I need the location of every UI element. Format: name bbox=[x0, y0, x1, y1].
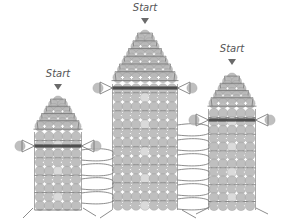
bead bbox=[149, 138, 159, 148]
bead bbox=[71, 175, 81, 185]
bead bbox=[149, 102, 159, 112]
bead-towers bbox=[15, 30, 275, 211]
bead bbox=[44, 183, 54, 193]
bead bbox=[189, 115, 199, 125]
bead-stitch-diagram bbox=[0, 0, 284, 219]
bead bbox=[113, 174, 123, 184]
bead bbox=[122, 174, 132, 184]
bead bbox=[35, 131, 45, 141]
tower-left bbox=[15, 96, 101, 211]
bead bbox=[44, 166, 54, 176]
bead bbox=[140, 102, 150, 112]
loops-center-right bbox=[178, 124, 211, 210]
bead bbox=[35, 149, 45, 159]
bead bbox=[62, 149, 72, 159]
thread-loop bbox=[82, 192, 115, 204]
bead bbox=[62, 183, 72, 193]
bead bbox=[167, 147, 177, 157]
bead bbox=[71, 157, 81, 167]
bead bbox=[62, 166, 72, 176]
bead bbox=[149, 120, 159, 130]
bead bbox=[167, 165, 177, 175]
thread-tail bbox=[100, 210, 112, 218]
bead bbox=[167, 192, 177, 202]
bead bbox=[140, 156, 150, 166]
bead bbox=[62, 201, 72, 211]
bead bbox=[122, 192, 132, 202]
bead bbox=[122, 102, 132, 112]
dark-thread-band bbox=[35, 144, 82, 147]
bead bbox=[131, 174, 141, 184]
bead bbox=[167, 174, 177, 184]
thread-loop bbox=[178, 154, 211, 166]
bead bbox=[167, 111, 177, 121]
bead bbox=[71, 149, 81, 159]
bead bbox=[167, 129, 177, 139]
bead bbox=[113, 156, 123, 166]
bead bbox=[158, 102, 168, 112]
bead bbox=[35, 201, 45, 211]
bead bbox=[53, 131, 63, 141]
bead bbox=[35, 166, 45, 176]
thread-loop bbox=[178, 169, 211, 181]
bead bbox=[158, 120, 168, 130]
thread-tail bbox=[83, 208, 96, 216]
bead bbox=[62, 131, 72, 141]
bead bbox=[149, 192, 159, 202]
bead bbox=[113, 120, 123, 130]
dark-thread-band bbox=[209, 118, 256, 121]
bead bbox=[44, 149, 54, 159]
bead bbox=[122, 156, 132, 166]
tower-center bbox=[93, 30, 197, 210]
bead bbox=[113, 102, 123, 112]
thread-loop bbox=[178, 184, 211, 196]
thread-loop bbox=[178, 198, 211, 210]
bead bbox=[167, 93, 177, 103]
loops-left-center bbox=[82, 149, 115, 204]
bead bbox=[140, 192, 150, 202]
bead bbox=[167, 120, 177, 130]
bead bbox=[167, 183, 177, 193]
thread-loop bbox=[82, 164, 115, 176]
bead bbox=[44, 131, 54, 141]
bead bbox=[131, 102, 141, 112]
bead bbox=[15, 141, 25, 151]
bead bbox=[158, 192, 168, 202]
thread-tail bbox=[23, 208, 33, 218]
bead bbox=[53, 149, 63, 159]
bead bbox=[140, 138, 150, 148]
bead bbox=[131, 156, 141, 166]
thread-loop bbox=[178, 139, 211, 151]
bead bbox=[71, 131, 81, 141]
bead bbox=[53, 183, 63, 193]
bead bbox=[265, 115, 275, 125]
bead bbox=[71, 166, 81, 176]
bead bbox=[158, 156, 168, 166]
bead bbox=[149, 174, 159, 184]
bead bbox=[140, 174, 150, 184]
bead bbox=[71, 201, 81, 211]
thread-tail bbox=[182, 210, 196, 218]
bead bbox=[53, 201, 63, 211]
tower-right bbox=[189, 73, 275, 211]
bead bbox=[167, 201, 177, 211]
bead bbox=[122, 138, 132, 148]
bead bbox=[113, 138, 123, 148]
bead bbox=[167, 156, 177, 166]
bead bbox=[149, 156, 159, 166]
bead bbox=[187, 83, 197, 93]
thread-loop bbox=[178, 124, 211, 136]
bead bbox=[158, 174, 168, 184]
bead bbox=[93, 83, 103, 93]
bead bbox=[44, 201, 54, 211]
bead bbox=[167, 102, 177, 112]
bead bbox=[91, 141, 101, 151]
bead bbox=[140, 120, 150, 130]
bead bbox=[53, 166, 63, 176]
bead bbox=[71, 192, 81, 202]
bead bbox=[131, 192, 141, 202]
bead bbox=[245, 201, 255, 211]
bead bbox=[167, 138, 177, 148]
dark-thread-band bbox=[113, 86, 178, 89]
bead bbox=[122, 120, 132, 130]
